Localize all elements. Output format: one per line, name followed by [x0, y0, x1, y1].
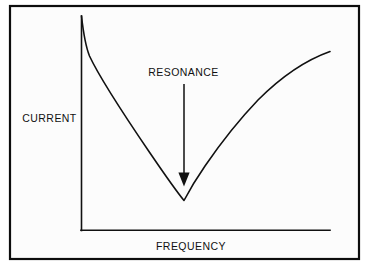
figure-root: RESONANCE CURRENT FREQUENCY — [0, 0, 368, 268]
resonance-annotation-label: RESONANCE — [148, 66, 219, 78]
resonance-chart: RESONANCE CURRENT FREQUENCY — [0, 0, 368, 268]
y-axis-label: CURRENT — [22, 112, 77, 124]
x-axis-label: FREQUENCY — [156, 240, 226, 252]
